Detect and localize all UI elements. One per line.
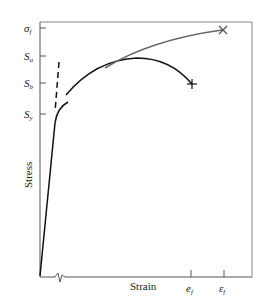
stress-strain-diagram: σf Su Sb Sy ef εf Strain Stress xyxy=(0,0,267,305)
engineering-curve xyxy=(66,58,192,95)
x-axis-label: Strain xyxy=(130,280,157,292)
label-epsilon-f: εf xyxy=(219,282,226,296)
label-e-f: ef xyxy=(186,282,194,296)
yield-curve xyxy=(55,102,68,123)
elastic-line xyxy=(40,123,55,276)
label-s-u: Su xyxy=(24,50,34,64)
dashed-extension xyxy=(55,62,59,112)
label-s-b: Sb xyxy=(24,77,34,91)
label-sigma-f: σf xyxy=(24,22,32,36)
y-axis-label: Stress xyxy=(22,162,34,188)
label-s-y: Sy xyxy=(24,108,34,122)
